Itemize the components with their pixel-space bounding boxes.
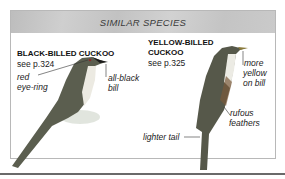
species-ref-black-billed: see p.324 — [17, 59, 54, 69]
label-lighter-tail: lighter tail — [143, 132, 179, 142]
label-all-black: all-black — [108, 73, 139, 83]
label-on-bill: on bill — [243, 78, 265, 88]
label-feathers: feathers — [229, 118, 260, 128]
species-name-black-billed: BLACK-BILLED CUCKOO — [17, 49, 114, 59]
species-name-yellow-billed-1: YELLOW-BILLED — [148, 38, 214, 48]
label-bill: bill — [108, 83, 118, 93]
label-more: more — [244, 58, 263, 68]
species-ref-yellow-billed: see p.325 — [148, 58, 185, 68]
label-yellow: yellow — [243, 68, 267, 78]
label-eye-ring: eye-ring — [17, 82, 48, 92]
label-rufous: rufous — [230, 108, 254, 118]
bottom-rule — [0, 173, 285, 175]
species-name-yellow-billed-2: CUCKOO — [148, 48, 184, 58]
label-red: red — [17, 72, 29, 82]
